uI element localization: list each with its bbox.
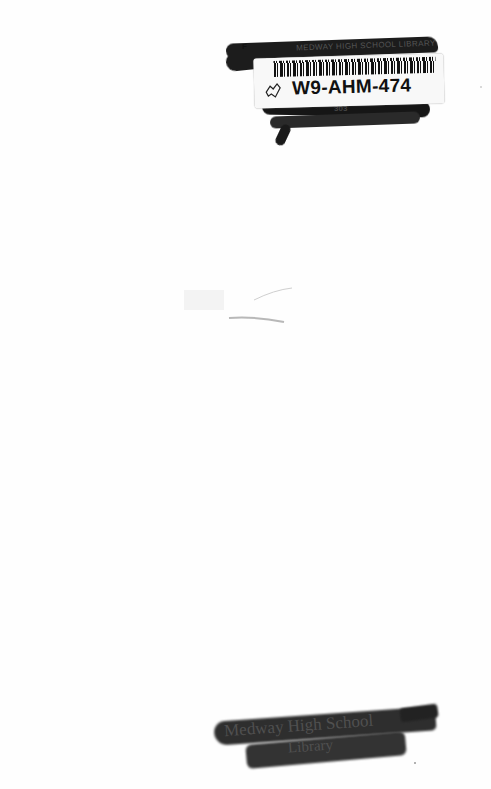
scanned-page: F MEDWAY HIGH SCHOOL LIBRARY 303 W9-AHM-…	[0, 0, 491, 789]
speck	[414, 762, 416, 764]
page-smudge	[184, 286, 294, 326]
barcode	[273, 57, 435, 77]
stamp-line-2: Library	[287, 736, 333, 756]
barcode-label: W9-AHM-474	[253, 54, 444, 109]
corner-mark: F	[242, 42, 247, 51]
speck	[480, 86, 482, 88]
book-outline-icon	[264, 82, 282, 100]
barcode-id: W9-AHM-474	[292, 74, 412, 99]
